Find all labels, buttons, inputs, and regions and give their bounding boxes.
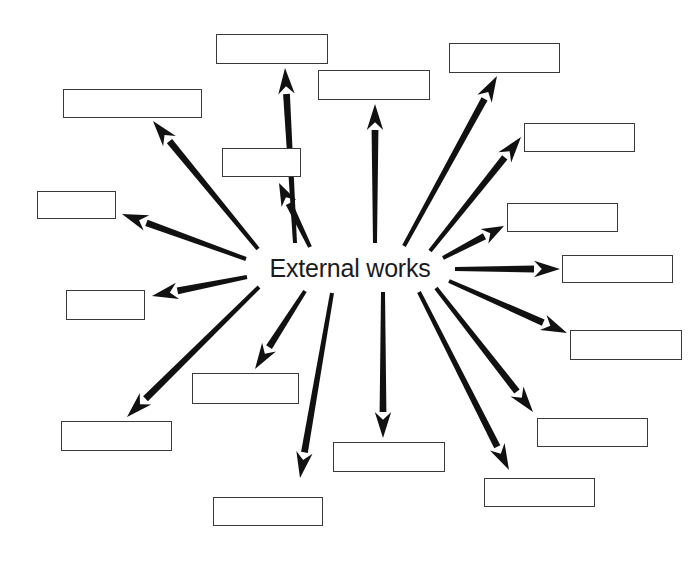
node-box-n13[interactable] [61, 421, 172, 451]
arrow-n15 [375, 292, 391, 438]
node-box-n14[interactable] [537, 418, 648, 447]
node-box-n09[interactable] [562, 255, 673, 283]
node-box-n17[interactable] [484, 478, 595, 507]
node-label-n01 [217, 35, 327, 63]
node-box-n04[interactable] [449, 43, 560, 73]
node-label-n11 [571, 331, 681, 359]
arrow-n06 [428, 137, 521, 252]
node-box-n01[interactable] [216, 34, 328, 64]
node-box-n16[interactable] [213, 497, 323, 526]
node-box-n02[interactable] [318, 70, 430, 100]
node-label-n09 [563, 256, 672, 282]
node-label-n12 [193, 374, 298, 403]
node-label-n04 [450, 44, 559, 72]
arrow-n04 [402, 76, 497, 247]
diagram-canvas: External works [0, 0, 691, 561]
node-label-n08 [508, 204, 617, 231]
node-label-n17 [485, 479, 594, 506]
node-label-n13 [62, 422, 171, 450]
node-label-n16 [214, 498, 322, 525]
node-label-n07 [38, 192, 115, 218]
node-box-n03[interactable] [63, 89, 202, 118]
node-label-n03 [64, 90, 201, 117]
arrow-n02 [367, 104, 383, 243]
node-label-n06 [525, 124, 634, 151]
node-box-n06[interactable] [524, 123, 635, 152]
node-label-n02 [319, 71, 429, 99]
center-label: External works [269, 254, 430, 283]
node-box-n10[interactable] [66, 290, 145, 320]
node-box-n15[interactable] [333, 442, 445, 472]
node-label-n14 [538, 419, 647, 446]
node-box-n07[interactable] [37, 191, 116, 219]
node-box-n05[interactable] [222, 148, 301, 177]
arrow-n09 [455, 261, 560, 277]
node-label-n15 [334, 443, 444, 471]
node-box-n12[interactable] [192, 373, 299, 404]
node-box-n11[interactable] [570, 330, 682, 360]
arrow-n12 [255, 290, 307, 369]
arrow-n16 [296, 293, 334, 478]
node-label-n05 [223, 149, 300, 176]
node-label-n10 [67, 291, 144, 319]
arrow-n07 [122, 214, 247, 261]
arrow-n10 [152, 275, 247, 299]
node-box-n08[interactable] [507, 203, 618, 232]
arrow-n08 [442, 226, 504, 260]
